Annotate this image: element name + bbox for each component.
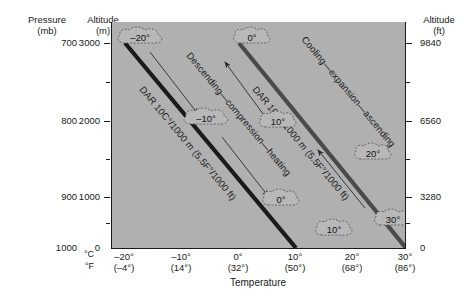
x-tick-neg20-c: –20° bbox=[94, 251, 154, 262]
altitude-m-label-3000: 3000 bbox=[38, 38, 100, 48]
plot-bottom-border bbox=[111, 248, 406, 249]
parcel-cloud-ascending-20: 20° bbox=[351, 142, 395, 164]
parcel-cloud-descending-10: 10° bbox=[312, 218, 356, 240]
altitude-ft-label-6560: 6560 bbox=[420, 116, 470, 126]
x-tick-20-c: 20° bbox=[322, 251, 382, 262]
dry-adiabatic-rate-diagram: Pressure (mb) Altitude (m) Altitude (ft)… bbox=[0, 0, 472, 303]
x-axis-title: Temperature bbox=[198, 277, 318, 288]
x-tick-0: 0° (32°) bbox=[208, 251, 268, 273]
x-tick-30: 30° (86°) bbox=[375, 251, 435, 273]
x-tick-30-f: (86°) bbox=[375, 262, 435, 273]
x-tick-0-f: (32°) bbox=[208, 262, 268, 273]
x-unit-celsius: °C bbox=[58, 249, 94, 259]
parcel-cloud-ascending-0: 0° bbox=[230, 26, 274, 48]
plot-right-border bbox=[405, 22, 406, 249]
altitude-m-label-1000: 1000 bbox=[38, 192, 100, 202]
altitude-ft-header-title: Altitude bbox=[410, 14, 468, 25]
plot-area: DAR 10C°/1000 m (5.5F°/1000 ft) Descendi… bbox=[112, 22, 405, 248]
x-tick-10: 10° (50°) bbox=[265, 251, 325, 273]
parcel-temp-10-descending: 10° bbox=[327, 224, 341, 235]
x-tick-neg10: –10° (14°) bbox=[151, 251, 211, 273]
x-tick-10-c: 10° bbox=[265, 251, 325, 262]
tick-left-3000 bbox=[104, 43, 110, 44]
altitude-ft-column-header: Altitude (ft) bbox=[410, 14, 468, 36]
tick-right-3280 bbox=[406, 197, 412, 198]
parcel-temp-neg10: –10° bbox=[196, 113, 216, 124]
parcel-temp-20-ascending: 20° bbox=[366, 148, 380, 159]
x-tick-neg10-c: –10° bbox=[151, 251, 211, 262]
parcel-cloud-descending-neg10: –10° bbox=[180, 107, 232, 129]
tick-left-1000 bbox=[104, 197, 110, 198]
x-tick-neg10-f: (14°) bbox=[151, 262, 211, 273]
tick-right-4920 bbox=[406, 159, 410, 160]
x-unit-fahrenheit: °F bbox=[58, 261, 94, 271]
parcel-temp-0-descending: 0° bbox=[276, 194, 285, 205]
tick-right-1640 bbox=[406, 223, 410, 224]
tick-right-6560 bbox=[406, 121, 412, 122]
tick-left-500 bbox=[106, 223, 110, 224]
parcel-cloud-descending-neg20: –20° bbox=[114, 26, 166, 48]
altitude-ft-label-9840: 9840 bbox=[420, 38, 470, 48]
parcel-temp-10-ascending: 10° bbox=[271, 116, 285, 127]
tick-left-1500 bbox=[106, 159, 110, 160]
parcel-temp-neg20: –20° bbox=[130, 32, 150, 43]
parcel-temp-0-ascending: 0° bbox=[247, 32, 256, 43]
altitude-ft-header-unit: (ft) bbox=[410, 25, 468, 36]
parcel-cloud-descending-0: 0° bbox=[259, 188, 303, 210]
x-tick-20: 20° (68°) bbox=[322, 251, 382, 273]
altitude-ft-label-3280: 3280 bbox=[420, 192, 470, 202]
x-tick-neg20-f: (–4°) bbox=[94, 262, 154, 273]
x-tick-20-f: (68°) bbox=[322, 262, 382, 273]
parcel-cloud-ascending-10: 10° bbox=[256, 110, 300, 132]
parcel-cloud-ascending-30: 30° bbox=[371, 208, 405, 230]
x-tick-10-f: (50°) bbox=[265, 262, 325, 273]
tick-left-2500 bbox=[106, 82, 110, 83]
x-tick-neg20: –20° (–4°) bbox=[94, 251, 154, 273]
x-tick-0-c: 0° bbox=[208, 251, 268, 262]
x-tick-30-c: 30° bbox=[375, 251, 435, 262]
parcel-temp-30-ascending: 30° bbox=[386, 214, 400, 225]
tick-right-8200 bbox=[406, 82, 410, 83]
tick-right-9840 bbox=[406, 43, 412, 44]
tick-left-2000 bbox=[104, 121, 110, 122]
altitude-m-label-2000: 2000 bbox=[38, 116, 100, 126]
